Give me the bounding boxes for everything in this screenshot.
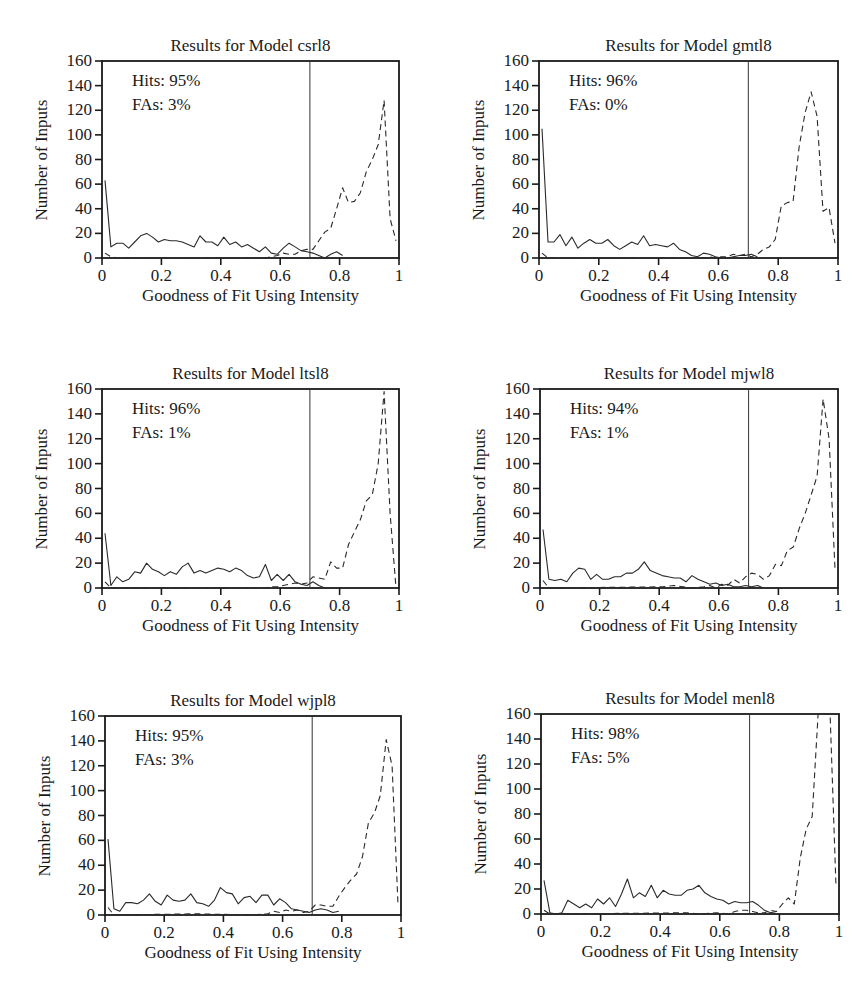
chart-panel-menl8: 02040608010012014016000.20.40.60.81Resul…: [0, 0, 434, 330]
chart-title: Results for Model menl8: [541, 689, 839, 709]
x-tick-label: 0.4: [640, 922, 680, 942]
fas-annotation: FAs: 5%: [571, 747, 630, 769]
x-tick-label: 0.6: [700, 922, 740, 942]
hits-annotation: Hits: 98%: [571, 723, 639, 745]
x-tick-label: 0.2: [581, 922, 621, 942]
series-solid-line: [544, 879, 776, 914]
y-tick-label: 0: [491, 904, 531, 924]
y-tick-label: 140: [491, 729, 531, 749]
y-tick-label: 20: [491, 879, 531, 899]
y-tick-label: 120: [491, 754, 531, 774]
y-axis-label: Number of Inputs: [471, 734, 491, 894]
y-tick-label: 100: [491, 779, 531, 799]
x-axis-label: Goodness of Fit Using Intensity: [541, 942, 839, 962]
x-tick-label: 0.8: [759, 922, 799, 942]
y-tick-label: 60: [491, 829, 531, 849]
x-tick-label: 0: [521, 922, 561, 942]
plot-area: [0, 0, 867, 996]
y-tick-label: 160: [491, 704, 531, 724]
x-tick-label: 1: [819, 922, 859, 942]
y-tick-label: 80: [491, 804, 531, 824]
y-tick-label: 40: [491, 854, 531, 874]
